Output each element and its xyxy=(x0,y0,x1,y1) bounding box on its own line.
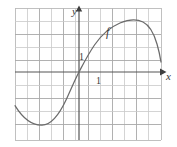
y-axis-label: y xyxy=(72,6,77,17)
x-axis-label: x xyxy=(166,71,171,82)
plot-canvas xyxy=(0,0,177,147)
grid-lines xyxy=(15,8,161,140)
function-graph-figure: y x f 1 1 xyxy=(0,0,177,147)
x-axis xyxy=(15,69,167,76)
function-label-f: f xyxy=(106,26,109,38)
x-axis-tick-label-1: 1 xyxy=(96,76,101,86)
y-axis-tick-label-1: 1 xyxy=(79,52,84,62)
